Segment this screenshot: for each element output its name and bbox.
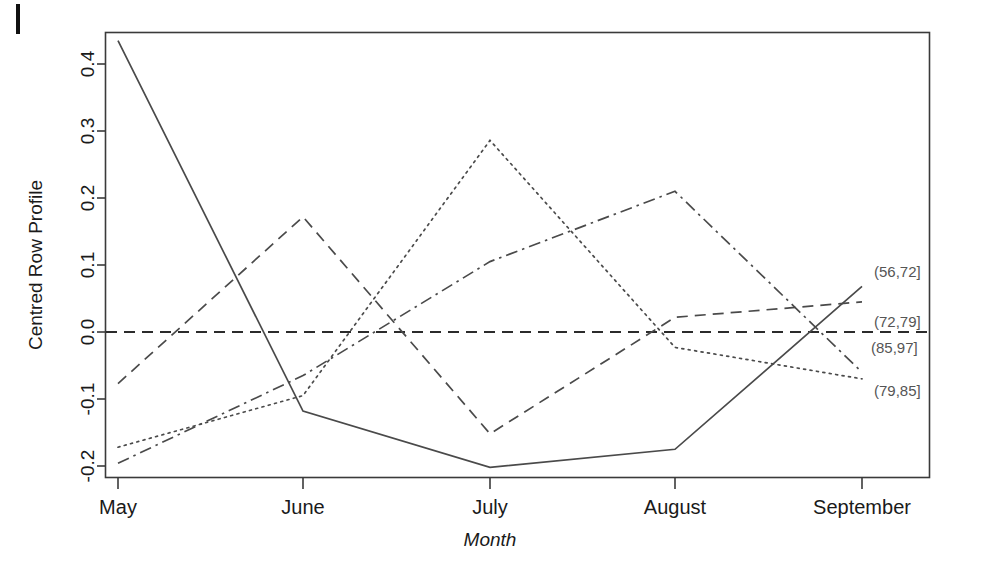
y-tick-label: -0.2 [77, 450, 98, 483]
y-tick-label: 0.4 [77, 50, 98, 77]
line-chart: 0.4 0.3 0.2 0.1 0.0 -0.1 -0.2 Centred Ro… [0, 0, 981, 569]
series-label-85-97: (85,97] [871, 339, 918, 356]
series-line-56-72 [118, 41, 862, 468]
x-tick-label: August [644, 496, 707, 518]
series-line-79-85 [118, 140, 862, 447]
series-label-72-79: (72,79] [874, 313, 921, 330]
x-axis-title: Month [464, 529, 517, 550]
series-inline-labels: (56,72] (72,79] (85,97] (79,85] [871, 263, 921, 399]
y-axis-ticks [97, 64, 106, 466]
y-tick-label: -0.1 [77, 383, 98, 416]
y-tick-label: 0.0 [77, 319, 98, 345]
series-label-79-85: (79,85] [874, 382, 921, 399]
y-tick-label: 0.1 [77, 252, 98, 278]
series-line-85-97 [118, 191, 862, 463]
y-axis-title: Centred Row Profile [25, 180, 46, 350]
y-tick-label: 0.3 [77, 118, 98, 144]
x-axis-ticks [118, 478, 862, 490]
x-tick-label: September [813, 496, 911, 518]
x-tick-label: July [472, 496, 508, 518]
y-axis-tick-labels: 0.4 0.3 0.2 0.1 0.0 -0.1 -0.2 [77, 50, 98, 482]
series-line-72-79 [118, 217, 862, 434]
series-layer [118, 41, 862, 468]
x-tick-label: June [281, 496, 324, 518]
figure-page: 0.4 0.3 0.2 0.1 0.0 -0.1 -0.2 Centred Ro… [0, 0, 981, 569]
x-tick-label: May [99, 496, 137, 518]
y-tick-label: 0.2 [77, 185, 98, 211]
series-label-56-72: (56,72] [874, 263, 921, 280]
x-axis-tick-labels: May June July August September [99, 496, 911, 518]
